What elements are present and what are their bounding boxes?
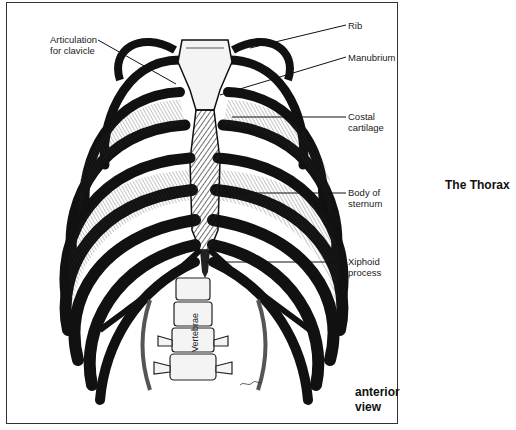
label-articulation-line2: for clavicle (50, 45, 97, 56)
figure-title: The Thorax (445, 178, 510, 192)
sternum-body (190, 110, 220, 250)
manubrium (178, 40, 232, 110)
thorax-illustration (0, 0, 516, 430)
label-rib: Rib (348, 20, 362, 31)
view-label-line1: anterior (355, 385, 400, 400)
label-costal-line2: cartilage (348, 122, 384, 133)
label-body-line2: sternum (348, 198, 382, 209)
label-costal-line1: Costal (348, 111, 384, 122)
label-articulation: Articulation for clavicle (50, 34, 97, 56)
label-vertebrae: Vertebrae (190, 313, 200, 352)
label-manubrium: Manubrium (348, 52, 396, 63)
xiphoid-process (200, 250, 210, 278)
label-costal-cartilage: Costal cartilage (348, 111, 384, 133)
label-body-line1: Body of (348, 187, 382, 198)
view-label-line2: view (355, 400, 400, 415)
label-xiphoid-line2: process (348, 267, 381, 278)
label-xiphoid-process: Xiphoid process (348, 256, 381, 278)
label-body-of-sternum: Body of sternum (348, 187, 382, 209)
view-label: anterior view (355, 385, 400, 415)
label-xiphoid-line1: Xiphoid (348, 256, 381, 267)
label-articulation-line1: Articulation (50, 34, 97, 45)
